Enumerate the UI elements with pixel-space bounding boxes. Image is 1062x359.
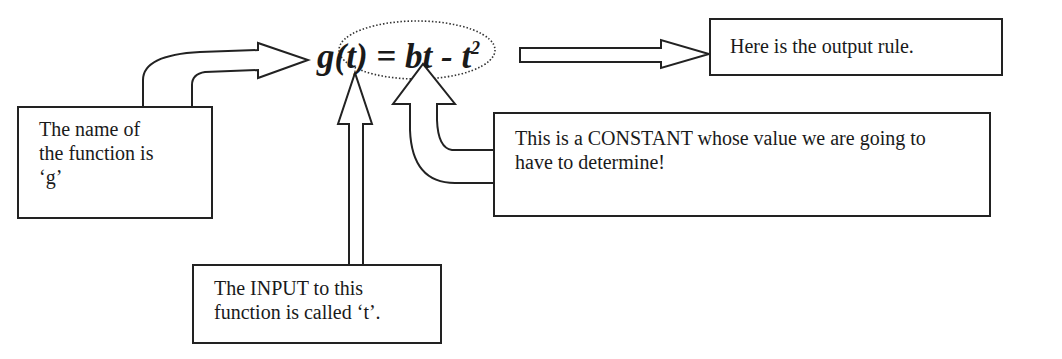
input-line-2: function is called ‘t’.	[214, 300, 440, 324]
output-rule-label: Here is the output rule.	[709, 18, 1003, 76]
exponent: 2	[471, 38, 480, 58]
function-notation-diagram: g(t) = bt - t2 The name of the function …	[0, 0, 1062, 359]
input-to-variable-arrow	[338, 73, 372, 264]
function-name-label: The name of the function is ‘g’	[17, 106, 213, 219]
constant-line-2: have to determine!	[515, 150, 989, 174]
input-label: The INPUT to this function is called ‘t’…	[192, 264, 442, 344]
constant-to-b-arrow	[393, 64, 494, 183]
constant-label: This is a CONSTANT whose value we are go…	[493, 112, 991, 217]
function-name-line-2: the function is	[39, 141, 211, 165]
function-rhs: bt - t	[405, 37, 471, 76]
rule-to-output-box-arrow	[520, 40, 709, 68]
name-to-function-arrow	[143, 43, 308, 106]
equals-sign: =	[376, 37, 396, 76]
input-line-1: The INPUT to this	[214, 276, 440, 300]
function-lhs: g(t)	[317, 37, 368, 76]
function-formula: g(t) = bt - t2	[317, 28, 480, 77]
function-name-line-1: The name of	[39, 117, 211, 141]
function-name-line-3: ‘g’	[39, 165, 211, 189]
output-rule-text: Here is the output rule.	[730, 34, 1001, 58]
constant-line-1: This is a CONSTANT whose value we are go…	[515, 126, 989, 150]
